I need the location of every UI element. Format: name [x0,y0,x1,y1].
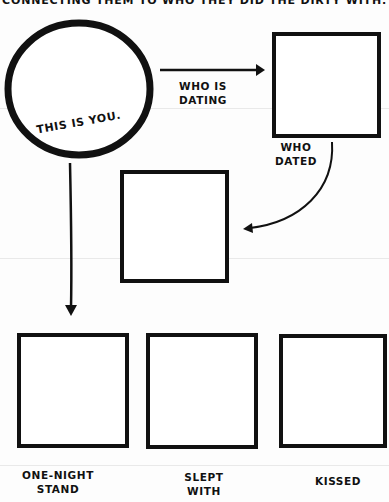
arrowhead-icon [65,305,77,316]
label-line: DATED [272,154,320,168]
label-line: ONE-NIGHT [22,468,94,482]
arrowhead-icon [243,223,253,233]
kissed-label: KISSED [313,474,363,488]
label-line: WITH [180,484,228,498]
arrowhead-icon [256,64,265,76]
kissed-box[interactable] [279,334,387,448]
you-circle [8,23,150,155]
label-line: WHO IS [176,79,230,93]
who-is-dating-label: WHO IS DATING [176,79,230,107]
one-night-stand-box[interactable] [17,333,129,448]
label-line: WHO [272,140,320,154]
one-night-stand-label: ONE-NIGHT STAND [22,468,94,496]
label-line: DATING [176,93,230,107]
who-dated-label: WHO DATED [272,140,320,168]
label-line: STAND [22,482,94,496]
slept-with-box[interactable] [146,333,258,449]
label-line: SLEPT [180,470,228,484]
dated-box[interactable] [120,170,229,283]
arrow-down [70,163,71,308]
dating-box[interactable] [272,32,381,138]
slept-with-label: SLEPT WITH [180,470,228,498]
